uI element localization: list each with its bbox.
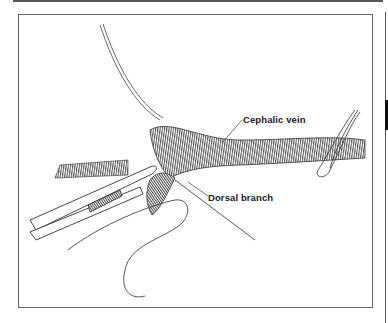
label-dorsal-branch: Dorsal branch	[208, 192, 273, 203]
label-cephalic-vein: Cephalic vein	[243, 114, 306, 125]
surgical-illustration	[0, 0, 388, 323]
upper-suture-line	[100, 24, 163, 120]
forceps	[30, 166, 156, 240]
vein-left-segment	[55, 160, 128, 178]
cephalic-vein-trunk	[150, 126, 365, 178]
dorsal-branch	[147, 173, 175, 215]
